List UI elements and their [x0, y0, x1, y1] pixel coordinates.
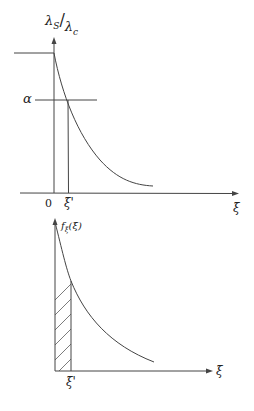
top-xi-prime-label: ξ̄': [64, 197, 74, 209]
top-y-axis-arrowhead: [52, 37, 57, 44]
hatched-area: [55, 280, 75, 390]
bottom-y-label-arg: (ξ̄): [69, 220, 82, 231]
bottom-x-axis-label: ξ̄: [216, 365, 223, 377]
top-x-axis: [20, 193, 234, 194]
bottom-y-axis-label: fξ̄(ξ̄): [61, 221, 82, 234]
bottom-density-curve: [55, 222, 154, 362]
top-plot: [14, 37, 239, 196]
diagram-canvas: [0, 0, 254, 411]
bottom-x-axis-arrowhead: [206, 369, 213, 374]
top-xi-prime-line: [68, 100, 69, 193]
bottom-plot: [53, 218, 214, 390]
top-y-label-denominator: λ: [65, 19, 73, 34]
bottom-xi-prime-label: ξ̄': [66, 376, 76, 388]
origin-label: 0: [45, 198, 52, 209]
top-y-label-numerator: λ: [45, 13, 53, 28]
top-y-label-denominator-sub: c: [73, 27, 78, 37]
top-y-axis-label: λS/λc: [45, 12, 78, 31]
alpha-label: α: [23, 92, 32, 105]
top-x-axis-label: ξ̄: [233, 202, 240, 214]
top-x-axis-arrowhead: [232, 191, 239, 196]
